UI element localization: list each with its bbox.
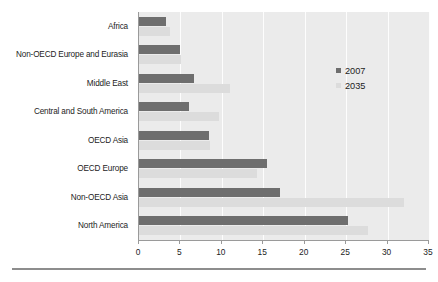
x-tick-label: 10 [216, 247, 225, 257]
bar-2035 [139, 27, 170, 36]
category-label: North America [0, 212, 133, 241]
category-label: Central and South America [0, 98, 133, 127]
bar-group [139, 98, 429, 127]
x-tick-label: 30 [382, 247, 391, 257]
bar-2007 [139, 45, 180, 54]
x-tick-mark [304, 240, 305, 244]
x-tick-mark [345, 240, 346, 244]
legend-label: 2007 [345, 66, 365, 76]
x-tick-mark [387, 240, 388, 244]
bar-2035 [139, 141, 210, 150]
category-label: Africa [0, 12, 133, 41]
bar-2035 [139, 84, 230, 93]
x-tick-label: 20 [299, 247, 308, 257]
bar-groups [139, 12, 429, 240]
bar-2007 [139, 102, 189, 111]
bar-2035 [139, 226, 368, 235]
bar-group [139, 126, 429, 155]
chart-legend: 20072035 [336, 63, 396, 93]
bar-2007 [139, 131, 209, 140]
footer-divider [12, 268, 426, 270]
bar-2035 [139, 112, 219, 121]
bar-2035 [139, 55, 181, 64]
category-label: OECD Asia [0, 126, 133, 155]
bar-2007 [139, 159, 267, 168]
category-label: OECD Europe [0, 155, 133, 184]
x-tick-mark [179, 240, 180, 244]
bar-2035 [139, 198, 404, 207]
x-axis-line [138, 240, 428, 241]
legend-item-2035: 2035 [336, 78, 396, 93]
x-tick-mark [262, 240, 263, 244]
category-label: Non-OECD Asia [0, 183, 133, 212]
bar-2035 [139, 169, 257, 178]
bar-group [139, 183, 429, 212]
bar-group [139, 155, 429, 184]
x-tick-label: 25 [340, 247, 349, 257]
bar-2007 [139, 74, 194, 83]
bar-group [139, 212, 429, 241]
category-axis-labels: AfricaNon-OECD Europe and EurasiaMiddle … [0, 12, 133, 240]
x-tick-label: 15 [258, 247, 267, 257]
plot-area [138, 12, 429, 240]
x-tick-mark [138, 240, 139, 244]
x-tick-label: 35 [423, 247, 432, 257]
legend-item-2007: 2007 [336, 63, 396, 78]
x-tick-mark [221, 240, 222, 244]
x-tick-label: 5 [177, 247, 182, 257]
gridline [429, 12, 430, 240]
bar-2007 [139, 17, 166, 26]
legend-swatch-icon [336, 83, 341, 88]
bar-2007 [139, 216, 348, 225]
category-label: Non-OECD Europe and Eurasia [0, 41, 133, 70]
legend-swatch-icon [336, 68, 341, 73]
legend-label: 2035 [345, 81, 365, 91]
x-tick-label: 0 [136, 247, 141, 257]
bar-group [139, 12, 429, 41]
x-tick-mark [428, 240, 429, 244]
chart-figure: AfricaNon-OECD Europe and EurasiaMiddle … [0, 0, 438, 282]
category-label: Middle East [0, 69, 133, 98]
bar-2007 [139, 188, 280, 197]
